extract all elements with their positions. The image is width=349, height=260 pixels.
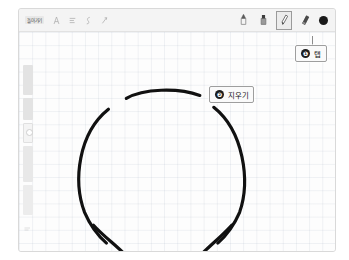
callout-erase: ❷ 지우기	[209, 86, 254, 103]
highlighter-icon[interactable]	[277, 12, 291, 29]
callout-badge: ❷	[215, 90, 224, 99]
note-canvas[interactable]	[19, 32, 335, 251]
eraser-icon[interactable]	[299, 13, 311, 28]
callout-label: 탭	[314, 48, 321, 59]
color-swatch-black[interactable]	[319, 16, 328, 25]
marker-icon[interactable]	[257, 13, 269, 28]
hand-drawn-figure	[19, 32, 335, 251]
screenshot-root: 돌아가기	[0, 0, 349, 260]
strip-segment[interactable]	[23, 98, 33, 120]
back-button[interactable]: 돌아가기	[25, 16, 44, 24]
toolbar-tools-group	[237, 12, 335, 29]
page-thumbnail-strip[interactable]	[23, 65, 33, 225]
callout-badge: ❶	[301, 49, 310, 58]
callout-tap: ❶ 탭	[295, 45, 327, 62]
strip-segment[interactable]	[23, 65, 33, 95]
strip-footer-icon	[24, 217, 31, 222]
tablet-device-frame: 돌아가기	[18, 8, 336, 252]
text-style-icon[interactable]	[53, 16, 60, 25]
toolbar-left-group: 돌아가기	[19, 16, 108, 25]
pen-icon[interactable]	[237, 13, 249, 28]
top-toolbar: 돌아가기	[19, 9, 335, 32]
attach-icon[interactable]	[101, 16, 108, 25]
strip-segment[interactable]	[23, 146, 33, 182]
strip-segment[interactable]	[23, 185, 33, 215]
callout-label: 지우기	[228, 89, 248, 100]
strip-indicator-dot	[26, 129, 33, 136]
insert-icon[interactable]	[85, 16, 92, 25]
list-icon[interactable]	[69, 16, 76, 25]
